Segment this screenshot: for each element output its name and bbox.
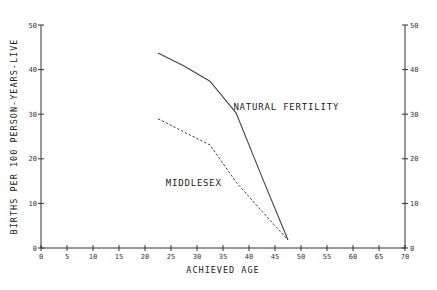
- y-axis-title: BIRTHS PER 100 PERSON-YEARS-LIVE: [9, 39, 19, 235]
- x-tick-label: 55: [323, 253, 331, 261]
- series-annotation: MIDDLESEX: [166, 178, 222, 188]
- right-y-tick-label: 50: [410, 22, 418, 30]
- x-tick-label: 0: [39, 253, 43, 261]
- y-tick-label: 50: [29, 22, 37, 30]
- labels: ACHIEVED AGEBIRTHS PER 100 PERSON-YEARS-…: [9, 39, 339, 275]
- x-tick-label: 5: [65, 253, 69, 261]
- y-tick-label: 0: [33, 245, 37, 253]
- x-tick-label: 25: [167, 253, 175, 261]
- y-tick-label: 10: [29, 200, 37, 208]
- x-tick-label: 65: [375, 253, 383, 261]
- x-tick-label: 30: [193, 253, 201, 261]
- x-tick-label: 45: [271, 253, 279, 261]
- chart: 0510152025303540455055606570010203040500…: [0, 0, 437, 290]
- x-axis-title: ACHIEVED AGE: [186, 265, 259, 275]
- y-tick-label: 20: [29, 155, 37, 163]
- x-tick-label: 70: [401, 253, 409, 261]
- x-tick-label: 50: [297, 253, 305, 261]
- axes: [41, 25, 405, 248]
- x-tick-label: 60: [349, 253, 357, 261]
- series-annotation: NATURAL FERTILITY: [233, 102, 339, 112]
- right-y-tick-label: 30: [410, 111, 418, 119]
- y-tick-label: 40: [29, 66, 37, 74]
- x-tick-label: 15: [115, 253, 123, 261]
- x-tick-label: 20: [141, 253, 149, 261]
- right-y-tick-label: 10: [410, 200, 418, 208]
- ticks: 0510152025303540455055606570010203040500…: [29, 22, 419, 262]
- series-lines: [158, 53, 288, 240]
- right-y-tick-label: 20: [410, 155, 418, 163]
- right-y-tick-label: 0: [410, 245, 414, 253]
- series-natural-fertility: [158, 53, 288, 240]
- y-tick-label: 30: [29, 111, 37, 119]
- x-tick-label: 35: [219, 253, 227, 261]
- right-y-tick-label: 40: [410, 66, 418, 74]
- x-tick-label: 10: [89, 253, 97, 261]
- x-tick-label: 40: [245, 253, 253, 261]
